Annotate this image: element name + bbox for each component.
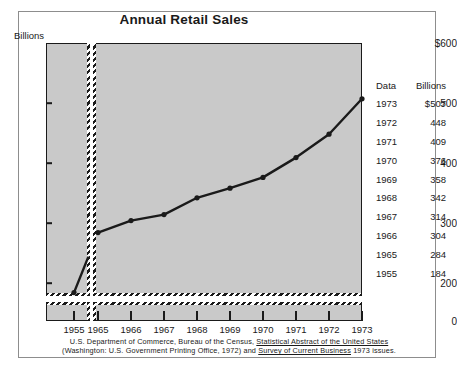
x-axis-tick-mark [73, 311, 75, 321]
data-table: Data Billions 1973$507197244819714091970… [376, 80, 450, 287]
table-cell-value: $507 [407, 98, 450, 109]
footnote-line2-text: (Washington: U.S. Government Printing Of… [62, 346, 258, 355]
panel-break-edge-bottom [93, 293, 362, 296]
table-cell-year: 1965 [376, 249, 407, 260]
table-cell-year: 1968 [376, 192, 407, 203]
zero-strip-main [94, 303, 362, 321]
table-cell-value: 358 [407, 174, 450, 185]
source-footnote: U.S. Department of Commerce, Bureau of t… [28, 337, 430, 356]
x-axis-tick-mark [97, 311, 99, 321]
y-axis-tick-mark [46, 222, 52, 224]
table-body: 1973$50719724481971409197037619693581968… [376, 98, 450, 279]
x-axis-tick-mark [130, 311, 132, 321]
table-cell-year: 1972 [376, 117, 407, 128]
panel-break-edge-left [93, 43, 96, 296]
x-axis-tick-mark [163, 311, 165, 321]
x-axis-tick-mark [262, 311, 264, 321]
zero-strip-left [46, 303, 89, 321]
table-cell-value: 304 [407, 230, 450, 241]
plot-panel-1965-1973 [94, 43, 362, 295]
table-row: 1970376 [376, 155, 450, 166]
zero-strip-break-edge-right [87, 302, 90, 321]
table-row: 1973$507 [376, 98, 450, 109]
table-row: 1971409 [376, 136, 450, 147]
x-axis-tick-mark [229, 311, 231, 321]
footnote-line1-text: U.S. Department of Commerce, Bureau of t… [70, 337, 257, 346]
footnote-line1-title: Statistical Abstract of the United State… [256, 337, 388, 346]
table-cell-value: 409 [407, 136, 450, 147]
zero-strip-break-edge-left [93, 302, 96, 321]
panel-break-edge-bottom [46, 293, 90, 296]
table-row: 1966304 [376, 230, 450, 241]
table-header-row: Data Billions [376, 80, 450, 91]
table-row: 1955184 [376, 268, 450, 279]
zero-strip-break-edge-top [46, 302, 90, 305]
zero-strip-break-edge-top [93, 302, 362, 305]
table-cell-year: 1970 [376, 155, 407, 166]
table-cell-value: 184 [407, 268, 450, 279]
plot-panel-1955 [46, 43, 89, 295]
footnote-line2-title: Survey of Current Business [258, 346, 351, 355]
x-axis-tick-mark [295, 311, 297, 321]
table-cell-year: 1969 [376, 174, 407, 185]
table-cell-value: 376 [407, 155, 450, 166]
x-axis-tick-mark [196, 311, 198, 321]
table-row: 1965284 [376, 249, 450, 260]
table-cell-year: 1973 [376, 98, 407, 109]
table-cell-value: 284 [407, 249, 450, 260]
x-axis-tick-label: 1973 [342, 324, 382, 335]
panel-break-edge-right [87, 43, 90, 296]
x-axis-tick-mark [361, 311, 363, 321]
table-header-value: Billions [407, 80, 450, 91]
table-row: 1968342 [376, 192, 450, 203]
y-axis-tick-label: $600 [415, 38, 457, 49]
y-axis-tick-mark [46, 102, 52, 104]
table-cell-year: 1955 [376, 268, 407, 279]
y-axis-tick-mark [46, 282, 52, 284]
table-row: 1972448 [376, 117, 450, 128]
y-axis-tick-label: 0 [415, 316, 457, 327]
y-axis-tick-mark [46, 162, 52, 164]
table-cell-value: 448 [407, 117, 450, 128]
x-axis-tick-mark [328, 311, 330, 321]
table-cell-value: 314 [407, 211, 450, 222]
table-cell-year: 1967 [376, 211, 407, 222]
footnote-line2-tail: 1973 issues. [351, 346, 396, 355]
chart-page: Annual Retail Sales Billions $6005004003… [0, 0, 457, 377]
table-row: 1969358 [376, 174, 450, 185]
table-cell-year: 1971 [376, 136, 407, 147]
table-row: 1967314 [376, 211, 450, 222]
table-header-year: Data [376, 80, 407, 91]
table-cell-value: 342 [407, 192, 450, 203]
table-cell-year: 1966 [376, 230, 407, 241]
